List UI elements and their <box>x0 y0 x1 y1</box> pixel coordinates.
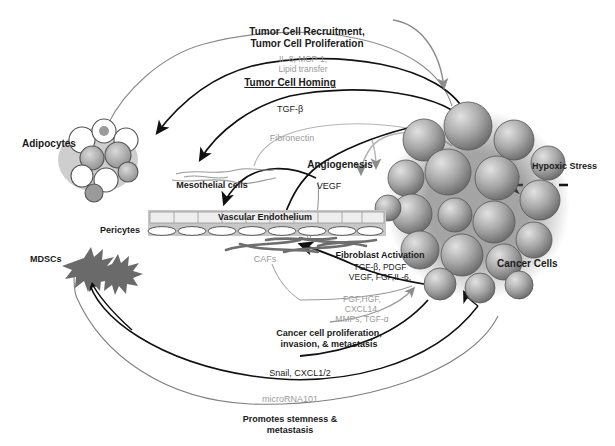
mesothelial-cells-label: Mesothelial cells <box>176 180 248 191</box>
tumor-recruitment-line1: Tumor Cell Recruitment, <box>249 26 364 38</box>
cafs-label: CAFs <box>254 254 277 265</box>
il8-mcp1-line1: IL-8, MCP-1, <box>278 54 327 64</box>
snail-cxcl-label: Snail, CXCL1/2 <box>269 368 331 379</box>
cancer-proliferation-line2: invasion, & metastasis <box>276 339 382 350</box>
fibroblast-factors: TGF-β, PDGF VEGF, FGF,IL-6, <box>349 262 411 282</box>
cancer-cells-label: Cancer Cells <box>497 258 558 270</box>
promotes-stemness-label: Promotes stemness & metastasis <box>243 414 338 435</box>
angiogenesis-label: Angiogenesis <box>307 159 373 171</box>
vascular-endothelium-label: Vascular Endothelium <box>218 212 312 223</box>
cancer-proliferation-label: Cancer cell proliferation, invasion, & m… <box>276 328 382 349</box>
pericytes-label: Pericytes <box>100 225 140 236</box>
il8-mcp1-line2: Lipid transfer <box>278 64 327 74</box>
mdscs-label: MDSCs <box>30 254 62 265</box>
vegf-label: VEGF <box>317 181 342 192</box>
adipocyte-cluster <box>58 119 138 202</box>
line-cafs-stalk <box>272 264 300 300</box>
fibroblast-factors-line2: VEGF, FGF,IL-6, <box>349 272 411 282</box>
il8-mcp1-label: IL-8, MCP-1, Lipid transfer <box>278 54 327 74</box>
caf-factors-line2: CXCL14, <box>335 304 388 314</box>
promotes-stemness-line2: metastasis <box>243 425 338 436</box>
caf-factors-line1: FGF,HGF, <box>335 294 388 304</box>
hypoxic-stress-label: Hypoxic Stress <box>532 161 597 172</box>
adipocytes-label: Adipocytes <box>22 138 76 150</box>
diagram-canvas: Tumor Cell Recruitment, Tumor Cell Proli… <box>0 0 615 446</box>
cancer-proliferation-line1: Cancer cell proliferation, <box>276 328 382 339</box>
tumor-cell-homing-label: Tumor Cell Homing <box>244 77 335 89</box>
fibroblast-factors-line1: TGF-β, PDGF <box>349 262 411 272</box>
fibroblast-activation-label: Fibroblast Activation <box>335 250 424 261</box>
microrna101-label: microRNA101 <box>262 394 318 405</box>
promotes-stemness-line1: Promotes stemness & <box>243 414 338 425</box>
tumor-recruitment-label: Tumor Cell Recruitment, Tumor Cell Proli… <box>249 26 364 50</box>
tumor-recruitment-line2: Tumor Cell Proliferation <box>249 38 364 50</box>
caf-factors: FGF,HGF, CXCL14, MMPs, TGF-α <box>335 294 388 324</box>
tgf-beta-label: TGF-β <box>277 104 303 115</box>
arc-microrna101 <box>76 296 498 404</box>
caf-factors-line3: MMPs, TGF-α <box>335 314 388 324</box>
fibronectin-label: Fibronectin <box>270 133 315 144</box>
